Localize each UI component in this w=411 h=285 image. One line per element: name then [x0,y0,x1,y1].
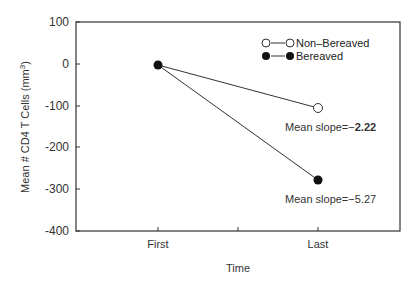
legend-label-bereaved: Bereaved [296,50,343,62]
y-tick-label: -300 [45,182,69,196]
legend: Non–Bereaved Bereaved [262,37,369,62]
legend-label-non-bereaved: Non–Bereaved [296,37,369,49]
filled-circle-icon [286,52,294,60]
y-tick-label: -200 [45,140,69,154]
open-circle-icon [286,39,294,47]
slope-annotation-bereaved: Mean slope=−5.27 [285,193,376,205]
x-axis-title: Time [226,262,250,274]
filled-circle-icon [262,52,270,60]
y-tick-label: 100 [49,15,69,29]
data-point-non-bereaved-last [314,104,323,113]
y-axis-title: Mean # CD4 T Cells (mm3) [18,61,31,193]
x-tick-label: First [147,238,168,250]
open-circle-icon [262,39,270,47]
slope-annotation-non-bereaved: Mean slope=−2.22 [285,121,376,133]
y-tick-label: -100 [45,99,69,113]
x-tick-label: Last [308,238,329,250]
series-line-non-bereaved [158,65,318,108]
data-point-first [154,61,163,70]
y-tick-label: -400 [45,224,69,238]
y-tick-label: 0 [62,57,69,71]
chart: 100 0 -100 -200 -300 -400 First Last Tim… [0,0,411,285]
data-point-bereaved-last [314,176,323,185]
x-axis [158,227,318,231]
